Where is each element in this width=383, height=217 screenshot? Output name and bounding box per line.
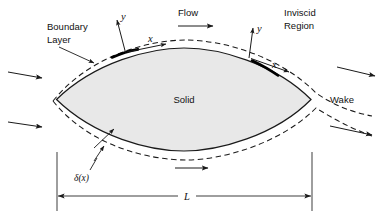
- boundary-layer-leader: [59, 47, 94, 63]
- coordinate-system-left: [117, 20, 166, 53]
- boundary-layer-diagram: y x y x: [0, 0, 383, 217]
- inviscid-label-line2: Region: [284, 20, 314, 31]
- x-axis-right-label: x: [271, 59, 277, 70]
- solid-label: Solid: [173, 94, 194, 105]
- y-axis-right-label: y: [256, 23, 262, 34]
- figure-canvas: y x y x: [0, 0, 383, 217]
- wake-label: Wake: [330, 94, 354, 105]
- outflow-arrow-upper: [337, 67, 375, 76]
- length-label: L: [183, 191, 190, 202]
- boundary-layer-label-line1: Boundary: [47, 21, 88, 32]
- inviscid-label-line1: Inviscid: [284, 7, 316, 18]
- delta-label-tail: [90, 158, 97, 170]
- x-axis-left-label: x: [147, 33, 153, 44]
- inflow-arrows: [8, 72, 42, 127]
- y-axis-left-label: y: [120, 11, 126, 22]
- inflow-arrow-upper: [8, 72, 42, 78]
- flow-label: Flow: [178, 7, 198, 18]
- delta-leader-to-edge: [94, 146, 104, 161]
- boundary-layer-leader-arrow: [59, 47, 94, 63]
- boundary-layer-label-line2: Layer: [47, 34, 71, 45]
- y-axis-left: [117, 20, 126, 53]
- inflow-arrow-lower: [8, 122, 42, 127]
- delta-label: δ(x): [74, 173, 89, 184]
